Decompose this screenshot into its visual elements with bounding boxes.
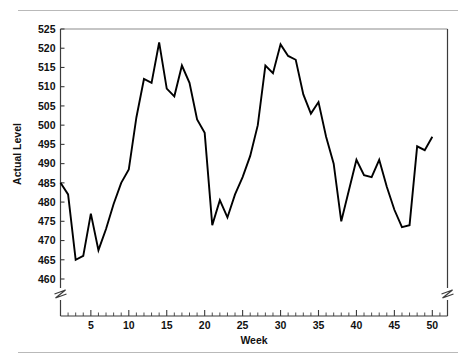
y-tick-label: 505 [38,100,56,112]
y-axis-title: Actual Level [11,123,23,185]
x-tick-label: 50 [426,319,438,331]
x-tick-label: 40 [351,319,363,331]
y-tick-label: 515 [38,61,56,73]
y-tick-label: 520 [38,42,56,54]
line-chart: 4604654704754804854904955005055105155205… [0,0,473,362]
y-tick-label: 485 [38,177,56,189]
x-axis-title: Week [240,334,267,346]
series-line-actual-level [61,42,433,259]
x-tick-label: 35 [313,319,325,331]
y-tick-label: 495 [38,138,56,150]
y-tick-label: 460 [38,273,56,285]
y-tick-label: 475 [38,215,56,227]
figure-page: 4604654704754804854904955005055105155205… [0,0,473,362]
y-tick-label: 465 [38,254,56,266]
y-tick-label: 525 [38,23,56,35]
x-tick-label: 10 [123,319,135,331]
x-tick-label: 20 [199,319,211,331]
x-tick-label: 25 [237,319,249,331]
y-tick-label: 510 [38,80,56,92]
y-axis-break-symbol-left [55,290,67,298]
y-tick-label: 490 [38,157,56,169]
y-tick-label: 500 [38,119,56,131]
y-axis-break-symbol-right [442,290,454,298]
x-tick-label: 30 [275,319,287,331]
y-tick-label: 470 [38,234,56,246]
x-tick-label: 45 [389,319,401,331]
y-tick-label: 480 [38,196,56,208]
x-tick-label: 15 [161,319,173,331]
x-tick-label: 5 [88,319,94,331]
